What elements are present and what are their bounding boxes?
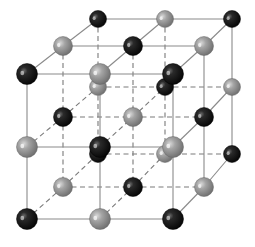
ion-highlight bbox=[166, 71, 170, 76]
ion-gray bbox=[157, 11, 174, 28]
ion-black bbox=[163, 64, 184, 85]
ion-highlight bbox=[160, 16, 163, 20]
ion-highlight bbox=[198, 114, 201, 118]
ion-gray bbox=[195, 178, 214, 197]
ion-highlight bbox=[198, 43, 201, 47]
ion-highlight bbox=[160, 151, 163, 155]
ion-highlight bbox=[127, 184, 130, 188]
ion-highlight bbox=[227, 16, 230, 20]
ion-highlight bbox=[20, 71, 24, 76]
ion-gray bbox=[54, 37, 73, 56]
ion-highlight bbox=[166, 216, 170, 221]
ion-gray bbox=[54, 178, 73, 197]
ion-highlight bbox=[127, 43, 130, 47]
ion-gray bbox=[163, 137, 184, 158]
ion-highlight bbox=[166, 144, 170, 149]
ion-highlight bbox=[93, 84, 96, 88]
ion-gray bbox=[195, 37, 214, 56]
ion-highlight bbox=[57, 114, 60, 118]
ion-black bbox=[90, 11, 107, 28]
ion-highlight bbox=[57, 184, 60, 188]
ion-gray bbox=[90, 64, 111, 85]
ion-highlight bbox=[93, 16, 96, 20]
ion-gray bbox=[90, 209, 111, 230]
lattice-ions bbox=[17, 11, 241, 230]
ion-black bbox=[163, 209, 184, 230]
ion-highlight bbox=[93, 144, 97, 149]
ion-highlight bbox=[227, 84, 230, 88]
ion-highlight bbox=[198, 184, 201, 188]
ion-gray bbox=[224, 79, 241, 96]
ion-highlight bbox=[93, 71, 97, 76]
ion-black bbox=[224, 146, 241, 163]
crystal-lattice-diagram bbox=[0, 0, 255, 247]
ion-highlight bbox=[227, 151, 230, 155]
ion-black bbox=[224, 11, 241, 28]
ion-gray bbox=[124, 108, 143, 127]
ion-black bbox=[54, 108, 73, 127]
ion-highlight bbox=[93, 216, 97, 221]
ion-highlight bbox=[160, 84, 163, 88]
ion-highlight bbox=[20, 216, 24, 221]
ion-gray bbox=[17, 137, 38, 158]
ion-black bbox=[17, 209, 38, 230]
ion-black bbox=[124, 178, 143, 197]
ion-black bbox=[124, 37, 143, 56]
ion-black bbox=[17, 64, 38, 85]
ion-highlight bbox=[57, 43, 60, 47]
ion-black bbox=[195, 108, 214, 127]
ion-black bbox=[90, 137, 111, 158]
ion-highlight bbox=[20, 144, 24, 149]
ion-highlight bbox=[127, 114, 130, 118]
